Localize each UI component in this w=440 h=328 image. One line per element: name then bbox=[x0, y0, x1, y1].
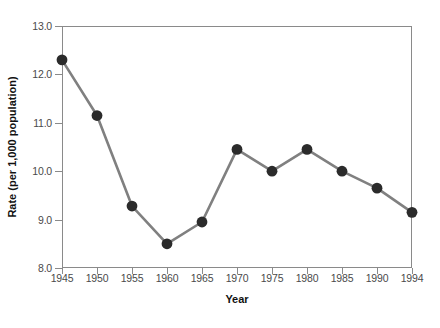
y-axis-tick-mark bbox=[55, 171, 62, 172]
y-axis-tick-mark bbox=[55, 26, 62, 27]
x-axis-tick-label: 1960 bbox=[156, 272, 179, 284]
x-axis-tick-label: 1990 bbox=[366, 272, 389, 284]
y-axis-tick-label: 8.0 bbox=[0, 262, 52, 274]
y-axis-title: Rate (per 1,000 population) bbox=[6, 76, 18, 217]
y-axis-tick-label: 13.0 bbox=[0, 20, 52, 32]
x-axis-tick-label: 1950 bbox=[86, 272, 109, 284]
x-axis-tick-label: 1975 bbox=[261, 272, 284, 284]
x-axis-title: Year bbox=[225, 293, 248, 305]
y-axis-tick-mark bbox=[55, 268, 62, 269]
y-axis-tick-mark bbox=[55, 74, 62, 75]
chart-figure: 8.09.010.011.012.013.0 19451950195519601… bbox=[0, 0, 440, 328]
plot-area bbox=[62, 26, 412, 268]
x-axis-tick-label: 1955 bbox=[121, 272, 144, 284]
x-axis-tick-label: 1980 bbox=[296, 272, 319, 284]
x-axis-tick-label: 1970 bbox=[226, 272, 249, 284]
x-axis-tick-label: 1945 bbox=[51, 272, 74, 284]
x-axis-tick-label: 1985 bbox=[331, 272, 354, 284]
y-axis-tick-mark bbox=[55, 220, 62, 221]
y-axis-tick-mark bbox=[55, 123, 62, 124]
x-axis-tick-label: 1965 bbox=[191, 272, 214, 284]
x-axis-tick-label: 1994 bbox=[401, 272, 424, 284]
